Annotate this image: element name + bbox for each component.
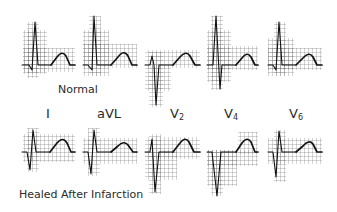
- lead-label-v6-sub: 6: [298, 113, 303, 122]
- lead-v2-normal: [145, 50, 200, 107]
- ecg-diagram: [0, 0, 337, 212]
- lead-label-v6-main: V: [289, 106, 298, 121]
- lead-label-v4: V4: [224, 107, 238, 125]
- lead-label-v4-main: V: [224, 106, 233, 121]
- lead-label-v2-sub: 2: [179, 113, 184, 122]
- lead-label-v2: V2: [170, 107, 184, 125]
- lead-i-healed: [22, 128, 75, 172]
- lead-v2-healed: [145, 134, 200, 194]
- lead-avl-healed: [83, 128, 137, 176]
- lead-v4-normal: [207, 16, 258, 90]
- lead-label-v6: V6: [289, 107, 303, 125]
- lead-label-v2-main: V: [170, 106, 179, 121]
- healed-section-label: Healed After Infarction: [19, 189, 143, 201]
- lead-label-i: I: [46, 107, 50, 121]
- lead-label-i-text: I: [46, 106, 50, 121]
- lead-v6-healed: [268, 130, 322, 182]
- lead-v4-healed: [207, 132, 258, 196]
- normal-section-label: Normal: [58, 84, 98, 96]
- lead-label-avl-text: aVL: [97, 106, 121, 121]
- lead-label-v4-sub: 4: [233, 113, 238, 122]
- lead-avl-normal: [83, 16, 137, 76]
- lead-label-avl: aVL: [97, 107, 121, 121]
- lead-v6-normal: [268, 22, 322, 76]
- lead-i-normal: [22, 22, 75, 78]
